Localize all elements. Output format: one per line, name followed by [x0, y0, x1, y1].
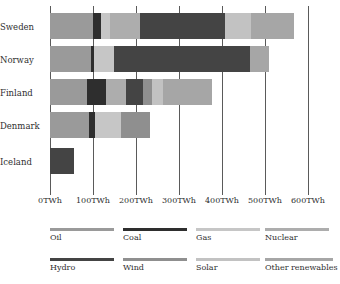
legend-swatch-oil	[50, 228, 114, 231]
legend-item-wind[interactable]: Wind	[123, 255, 191, 284]
legend-item-other-renewables[interactable]: Other renewables	[265, 255, 337, 284]
x-tick-200	[136, 188, 137, 195]
legend-item-solar[interactable]: Solar	[196, 255, 264, 284]
stacked-bar-iceland	[50, 148, 74, 174]
category-label-finland: Finland	[0, 88, 45, 98]
legend: OilCoalGasNuclear HydroWindSolarOther re…	[0, 225, 340, 283]
legend-item-nuclear[interactable]: Nuclear	[265, 225, 333, 254]
bar-segment-hydro	[126, 79, 143, 105]
legend-swatch-other-renewables	[265, 258, 333, 261]
bar-segment-solar	[225, 13, 251, 39]
x-tick-500	[265, 188, 266, 195]
bar-segment-nuclear	[110, 13, 140, 39]
bar-segment-oil	[50, 79, 87, 105]
category-label-iceland: Iceland	[0, 157, 45, 167]
x-tick-label-200: 200TWh	[119, 196, 153, 205]
category-label-denmark: Denmark	[0, 121, 45, 131]
x-axis-ticks	[50, 188, 308, 196]
stacked-bar-finland	[50, 79, 212, 105]
legend-label-other-renewables: Other renewables	[265, 263, 338, 272]
legend-label-coal: Coal	[123, 233, 141, 242]
bar-segment-other-renewables	[251, 13, 294, 39]
bar-segment-coal	[87, 79, 106, 105]
legend-swatch-hydro	[50, 258, 114, 261]
bar-segment-hydro	[50, 148, 74, 174]
legend-item-coal[interactable]: Coal	[123, 225, 191, 254]
bar-rows	[50, 6, 308, 188]
x-tick-label-100: 100TWh	[76, 196, 110, 205]
legend-label-nuclear: Nuclear	[265, 233, 298, 242]
x-axis-labels: 0TWh100TWh200TWh300TWh400TWh500TWh600TWh	[0, 196, 340, 210]
x-tick-label-300: 300TWh	[162, 196, 196, 205]
x-tick-label-600: 600TWh	[291, 196, 325, 205]
bar-segment-oil	[50, 46, 91, 72]
bar-segment-other-renewables	[163, 79, 212, 105]
bar-segment-oil	[50, 13, 93, 39]
x-tick-label-500: 500TWh	[248, 196, 282, 205]
bar-segment-nuclear	[106, 79, 126, 105]
legend-label-solar: Solar	[196, 263, 217, 272]
legend-label-oil: Oil	[50, 233, 62, 242]
stacked-bar-norway	[50, 46, 269, 72]
x-tick-400	[222, 188, 223, 195]
legend-swatch-solar	[196, 258, 260, 261]
legend-item-oil[interactable]: Oil	[50, 225, 118, 254]
legend-label-hydro: Hydro	[50, 263, 75, 272]
legend-item-gas[interactable]: Gas	[196, 225, 264, 254]
bar-segment-hydro	[114, 46, 251, 72]
gridline-600	[308, 6, 309, 188]
stacked-bar-denmark	[50, 112, 150, 138]
bar-segment-solar	[152, 79, 163, 105]
legend-label-wind: Wind	[123, 263, 144, 272]
bar-segment-gas	[101, 13, 110, 39]
legend-swatch-gas	[196, 228, 260, 231]
legend-row-2: HydroWindSolarOther renewables	[0, 255, 340, 284]
bar-segment-wind	[143, 79, 152, 105]
bar-segment-coal	[93, 13, 101, 39]
legend-swatch-coal	[123, 228, 187, 231]
plot-area	[50, 6, 308, 188]
stacked-bar-chart: SwedenNorwayFinlandDenmarkIceland 0TWh10…	[0, 0, 340, 284]
legend-label-gas: Gas	[196, 233, 211, 242]
bar-segment-wind	[121, 112, 150, 138]
x-tick-label-400: 400TWh	[205, 196, 239, 205]
bar-segment-hydro	[140, 13, 225, 39]
category-label-sweden: Sweden	[0, 22, 45, 32]
category-label-norway: Norway	[0, 55, 45, 65]
bar-segment-oil	[50, 112, 89, 138]
bar-segment-gas	[94, 46, 113, 72]
legend-item-hydro[interactable]: Hydro	[50, 255, 118, 284]
legend-swatch-wind	[123, 258, 187, 261]
bar-segment-gas	[95, 112, 121, 138]
x-tick-0	[50, 188, 51, 195]
legend-swatch-nuclear	[265, 228, 329, 231]
legend-row-1: OilCoalGasNuclear	[0, 225, 340, 254]
bar-segment-other-renewables	[250, 46, 269, 72]
x-tick-300	[179, 188, 180, 195]
x-tick-600	[308, 188, 309, 195]
x-tick-label-0: 0TWh	[38, 196, 62, 205]
x-tick-100	[93, 188, 94, 195]
stacked-bar-sweden	[50, 13, 294, 39]
